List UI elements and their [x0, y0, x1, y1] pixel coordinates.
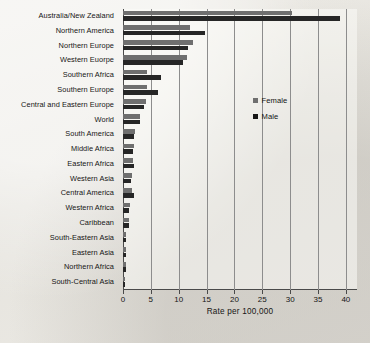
x-axis-ticks: 0510152025303540 — [123, 290, 363, 306]
category-label: Southern Africa — [63, 68, 114, 83]
x-tick — [207, 290, 208, 294]
bar-female — [123, 173, 132, 178]
bar-female — [123, 144, 134, 149]
bar-row — [123, 68, 357, 83]
bar-female — [123, 11, 292, 16]
x-tick-label: 30 — [286, 295, 295, 304]
bar-row — [123, 260, 357, 275]
x-tick — [290, 290, 291, 294]
x-axis-title: Rate per 100,000 — [123, 307, 357, 316]
bar-row — [123, 127, 357, 142]
bar-male — [123, 164, 134, 169]
x-tick-label: 15 — [202, 295, 211, 304]
bar-male — [123, 75, 161, 80]
category-label: South-Central Asia — [51, 275, 114, 290]
bar-male — [123, 149, 133, 154]
bar-row — [123, 275, 357, 290]
bar-row — [123, 201, 357, 216]
bar-female — [123, 203, 130, 208]
x-tick-label: 35 — [314, 295, 323, 304]
bar-female — [123, 247, 126, 252]
legend-label-male: Male — [262, 112, 279, 121]
x-tick — [318, 290, 319, 294]
bar-female — [123, 262, 126, 267]
bar-row — [123, 53, 357, 68]
bar-male — [123, 282, 125, 287]
bar-row — [123, 98, 357, 113]
bar-male — [123, 267, 126, 272]
bar-female — [123, 99, 146, 104]
category-axis-labels: Australia/New ZealandNorthern AmericaNor… — [0, 9, 119, 290]
x-tick — [262, 290, 263, 294]
male-swatch-icon — [253, 114, 258, 119]
x-tick — [346, 290, 347, 294]
bar-female — [123, 114, 140, 119]
legend-item-male: Male — [253, 112, 287, 121]
category-label: South America — [65, 127, 114, 142]
bar-male — [123, 238, 126, 243]
category-label: Eastern Asia — [72, 246, 114, 261]
bar-male — [123, 208, 129, 213]
chart-legend: Female Male — [253, 96, 287, 128]
bar-male — [123, 120, 140, 125]
category-label: Caribbean — [79, 216, 114, 231]
x-tick-label: 20 — [230, 295, 239, 304]
bar-female — [123, 40, 193, 45]
bar-row — [123, 9, 357, 24]
bar-female — [123, 129, 135, 134]
bar-row — [123, 186, 357, 201]
x-tick — [151, 290, 152, 294]
bar-female — [123, 232, 126, 237]
female-swatch-icon — [253, 98, 258, 103]
x-tick — [234, 290, 235, 294]
category-label: Southern Europe — [57, 83, 114, 98]
bar-female — [123, 277, 125, 282]
bar-male — [123, 60, 183, 65]
bar-male — [123, 179, 131, 184]
bar-row — [123, 24, 357, 39]
legend-item-female: Female — [253, 96, 287, 105]
bar-row — [123, 157, 357, 172]
bar-female — [123, 55, 187, 60]
bar-row — [123, 142, 357, 157]
legend-label-female: Female — [262, 96, 288, 105]
category-label: Australia/New Zealand — [39, 9, 114, 24]
x-tick — [179, 290, 180, 294]
bar-female — [123, 25, 190, 30]
plot-wrapper — [123, 9, 357, 290]
bar-chart: Australia/New ZealandNorthern AmericaNor… — [0, 0, 370, 343]
bar-female — [123, 218, 129, 223]
bar-male — [123, 253, 126, 258]
bar-male — [123, 31, 205, 36]
bar-female — [123, 70, 147, 75]
bar-male — [123, 16, 340, 21]
bar-row — [123, 83, 357, 98]
category-label: Northern Europe — [59, 39, 114, 54]
category-label: Central and Eastern Europe — [21, 98, 114, 113]
bar-rows — [123, 9, 357, 290]
category-label: Western Asia — [70, 172, 114, 187]
category-label: South-Eastern Asia — [50, 231, 114, 246]
bar-female — [123, 85, 147, 90]
bar-male — [123, 134, 134, 139]
bar-row — [123, 216, 357, 231]
bar-male — [123, 223, 129, 228]
category-label: Central America — [61, 186, 114, 201]
bar-row — [123, 231, 357, 246]
bar-row — [123, 246, 357, 261]
bar-male — [123, 193, 134, 198]
bar-male — [123, 46, 188, 51]
category-label: Middle Africa — [71, 142, 114, 157]
x-tick-label: 5 — [149, 295, 153, 304]
category-label: World — [95, 113, 114, 128]
category-label: Western Africa — [65, 201, 114, 216]
category-label: Western Euorpe — [60, 53, 114, 68]
bar-row — [123, 113, 357, 128]
category-label: Northern Africa — [64, 260, 114, 275]
bar-row — [123, 39, 357, 54]
x-tick-label: 40 — [341, 295, 350, 304]
bar-male — [123, 90, 158, 95]
x-tick — [123, 290, 124, 294]
bar-female — [123, 158, 133, 163]
x-tick-label: 25 — [258, 295, 267, 304]
